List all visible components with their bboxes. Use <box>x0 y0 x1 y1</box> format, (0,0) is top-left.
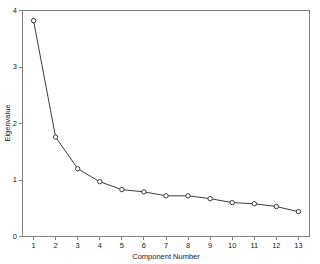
data-point-marker <box>186 194 190 198</box>
plot-canvas: 01234 12345678910111213 Eigenvalue Compo… <box>0 0 320 264</box>
x-tick-label: 10 <box>228 241 236 250</box>
x-tick-label: 6 <box>142 241 146 250</box>
data-point-marker <box>120 187 124 191</box>
x-tick-label: 1 <box>31 241 35 250</box>
data-point-marker <box>164 194 168 198</box>
plot-frame <box>23 11 310 237</box>
data-series-eigenvalue <box>34 21 299 212</box>
x-tick-label: 3 <box>76 241 80 250</box>
data-point-marker <box>53 135 57 139</box>
data-point-markers <box>31 18 300 213</box>
y-tick-label: 3 <box>13 62 17 71</box>
data-point-marker <box>142 190 146 194</box>
scree-plot-figure: 01234 12345678910111213 Eigenvalue Compo… <box>0 0 320 264</box>
data-point-marker <box>252 202 256 206</box>
y-axis-title: Eigenvalue <box>3 104 12 141</box>
x-tick-label: 9 <box>208 241 212 250</box>
y-axis-ticks: 01234 <box>13 6 23 241</box>
data-point-marker <box>208 196 212 200</box>
y-tick-label: 1 <box>13 175 17 184</box>
x-tick-label: 4 <box>98 241 102 250</box>
y-tick-label: 4 <box>13 6 17 15</box>
x-tick-label: 12 <box>272 241 280 250</box>
x-axis-ticks: 12345678910111213 <box>31 237 302 250</box>
x-tick-label: 5 <box>120 241 124 250</box>
x-tick-label: 8 <box>186 241 190 250</box>
x-tick-label: 11 <box>250 241 258 250</box>
y-tick-label: 0 <box>13 232 17 241</box>
data-point-marker <box>75 167 79 171</box>
data-point-marker <box>230 200 234 204</box>
data-point-marker <box>274 204 278 208</box>
data-point-marker <box>98 179 102 183</box>
x-tick-label: 2 <box>54 241 58 250</box>
data-point-marker <box>296 209 300 213</box>
x-tick-label: 13 <box>294 241 302 250</box>
y-tick-label: 2 <box>13 119 17 128</box>
data-point-marker <box>31 18 35 22</box>
x-axis-title: Component Number <box>132 252 200 261</box>
x-tick-label: 7 <box>164 241 168 250</box>
